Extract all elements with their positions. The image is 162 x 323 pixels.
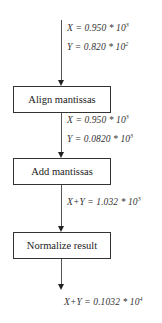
connector-add-to-normalize bbox=[61, 185, 62, 228]
equation-x-aligned: X = 0.950 * 103 bbox=[67, 114, 129, 125]
connector-align-to-add bbox=[61, 112, 62, 154]
equation-y-input: Y = 0.820 * 102 bbox=[67, 41, 128, 52]
connector-input bbox=[61, 20, 62, 82]
step-add-mantissas: Add mantissas bbox=[13, 158, 111, 185]
equation-sum: X+Y = 1.032 * 103 bbox=[67, 196, 141, 207]
step-label: Align mantissas bbox=[28, 94, 95, 105]
arrowhead-down-icon bbox=[58, 284, 64, 290]
equation-y-aligned: Y = 0.0820 * 103 bbox=[67, 133, 133, 144]
equation-x-input: X = 0.950 * 103 bbox=[67, 22, 129, 33]
step-label: Add mantissas bbox=[31, 166, 93, 177]
connector-output bbox=[61, 259, 62, 286]
step-label: Normalize result bbox=[27, 240, 97, 251]
step-align-mantissas: Align mantissas bbox=[13, 86, 111, 113]
equation-normalized-sum: X+Y = 0.1032 * 104 bbox=[64, 296, 143, 307]
step-normalize-result: Normalize result bbox=[13, 232, 111, 259]
